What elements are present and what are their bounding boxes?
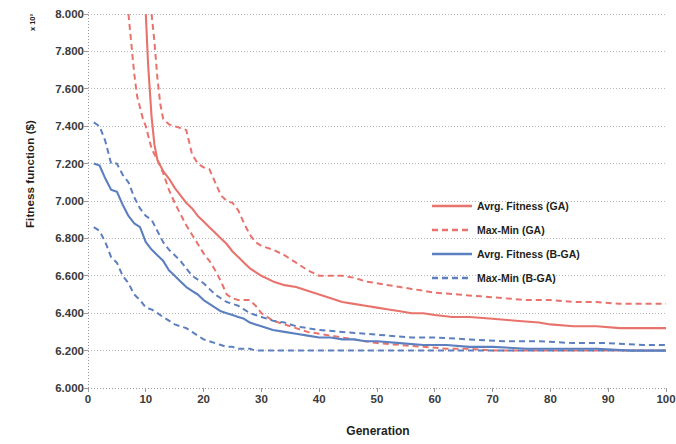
legend-item-1[interactable]: Max-Min (GA) [432,218,612,242]
legend-item-2[interactable]: Avrg. Fitness (B-GA) [432,242,612,266]
legend-swatch-icon [432,273,472,283]
legend-item-0[interactable]: Avrg. Fitness (GA) [432,194,612,218]
series-line-min_ga [128,14,666,351]
legend-label: Avrg. Fitness (GA) [477,200,569,212]
legend-swatch-icon [432,201,472,211]
legend-label: Max-Min (GA) [477,224,545,236]
legend-swatch-icon [432,249,472,259]
x-axis-title: Generation [88,424,668,438]
legend-label: Avrg. Fitness (B-GA) [477,248,580,260]
legend-item-3[interactable]: Max-Min (B-GA) [432,266,612,290]
legend-label: Max-Min (B-GA) [477,272,556,284]
chart-legend: Avrg. Fitness (GA)Max-Min (GA)Avrg. Fitn… [432,194,612,290]
legend-swatch-icon [432,225,472,235]
